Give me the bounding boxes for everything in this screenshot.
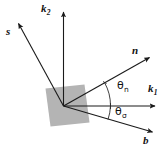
k2-axis-label-text: k: [41, 2, 47, 14]
theta-sigma-symbol: θ: [115, 105, 122, 118]
b-vector-label: b: [143, 135, 149, 146]
n-vector-label-text: n: [132, 44, 138, 56]
n-vector-line: [64, 58, 150, 107]
theta-n-label: θn: [117, 80, 129, 91]
theta-n-symbol: θ: [117, 79, 124, 92]
theta-sigma-subscript: σ: [122, 111, 127, 120]
n-vector-label: n: [132, 45, 138, 56]
k2-axis-label-subscript: 2: [47, 8, 51, 17]
k1-axis-label-subscript: 1: [154, 88, 158, 97]
s-vector-label: s: [6, 26, 10, 37]
diagram-canvas: [0, 0, 168, 154]
k2-axis-label: k2: [41, 3, 50, 14]
vector-diagram-figure: k2 s n k1 θn θσ b: [0, 0, 168, 154]
theta-sigma-label: θσ: [115, 106, 127, 117]
b-vector-label-text: b: [143, 134, 149, 146]
s-vector-line: [19, 24, 64, 107]
theta-n-subscript: n: [124, 85, 129, 94]
k1-axis-label: k1: [148, 83, 157, 94]
k1-axis-label-text: k: [148, 82, 154, 94]
s-vector-label-text: s: [6, 25, 10, 37]
theta-n-arc: [105, 83, 111, 107]
